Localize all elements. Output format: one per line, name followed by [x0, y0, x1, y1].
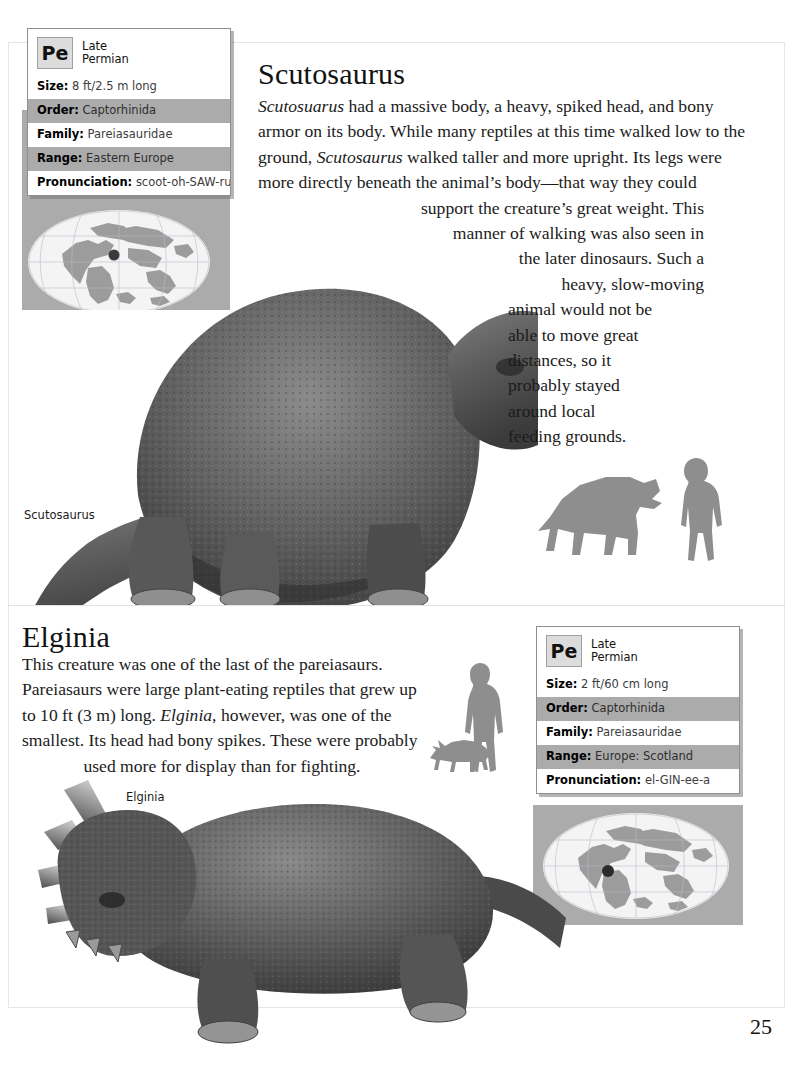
scutosaurus-infobox: Pe Late Permian Size: 8 ft/2.5 m long Or… [27, 28, 231, 196]
row-label: Family: [37, 127, 84, 141]
paragraph-line: able to move great [508, 323, 763, 348]
paragraph-line: probably stayed [508, 373, 763, 398]
paragraph-line: manner of walking was also seen in [258, 221, 704, 246]
epoch-line-1: Late [591, 638, 638, 652]
elginia-heading: Elginia [22, 620, 110, 654]
row-label: Order: [37, 103, 79, 117]
row-label: Order: [546, 701, 588, 715]
elginia-artwork-svg [28, 780, 568, 1060]
row-label: Family: [546, 725, 593, 739]
section-divider [8, 605, 785, 606]
elginia-scale-comparison [430, 662, 510, 780]
elginia-infobox: Pe Late Permian Size: 2 ft/60 cm long Or… [536, 626, 740, 794]
human-silhouette [681, 458, 722, 561]
row-value: Captorhinida [82, 103, 156, 117]
row-value: Eastern Europe [86, 151, 174, 165]
infobox-row-order: Order: Captorhinida [537, 697, 739, 721]
infobox-row-size: Size: 2 ft/60 cm long [537, 673, 739, 697]
infobox-row-range: Range: Eastern Europe [28, 147, 230, 171]
scutosaurus-paragraph: Scutosuarus had a massive body, a heavy,… [258, 94, 763, 450]
paragraph-line: armor on its body. While many reptiles a… [258, 119, 763, 144]
scutosaurus-caption: Scutosaurus [24, 508, 95, 522]
infobox-row-family: Family: Pareiasauridae [28, 123, 230, 147]
row-label: Size: [37, 79, 68, 93]
infobox-row-family: Family: Pareiasauridae [537, 721, 739, 745]
elginia-caption: Elginia [126, 790, 165, 804]
paragraph-line: around local [508, 399, 763, 424]
epoch-row: Pe Late Permian [537, 627, 739, 673]
paragraph-line: used more for display than for fighting. [22, 754, 422, 779]
infobox-row-range: Range: Europe: Scotland [537, 745, 739, 769]
species-italic: Scutosuarus [258, 96, 344, 116]
paragraph-line: feeding grounds. [508, 424, 763, 449]
paragraph-line: distances, so it [508, 348, 763, 373]
elginia-illustration [28, 780, 568, 1060]
infobox-row-order: Order: Captorhinida [28, 99, 230, 123]
row-value: scoot-oh-SAW-rus [136, 175, 230, 189]
infobox-row-pronunciation: Pronunciation: scoot-oh-SAW-rus [28, 171, 230, 195]
epoch-line-2: Permian [82, 53, 129, 67]
row-value: Pareiasauridae [597, 725, 682, 739]
paragraph-line: smallest. Its head had bony spikes. Thes… [22, 728, 422, 753]
scutosaurus-silhouette [538, 477, 662, 555]
scutosaurus-heading: Scutosaurus [258, 57, 405, 91]
paragraph-line: heavy, slow-moving [258, 272, 704, 297]
row-value: Pareiasauridae [88, 127, 173, 141]
epoch-label: Late Permian [82, 40, 129, 67]
row-label: Range: [37, 151, 82, 165]
scale-silhouettes-svg [532, 455, 732, 570]
paragraph-line: Pareiasaurs were large plant-eating rept… [22, 677, 422, 702]
paragraph-line: Scutosuarus had a massive body, a heavy,… [258, 94, 763, 119]
map-location-marker [602, 865, 614, 877]
elginia-paragraph: This creature was one of the last of the… [22, 652, 422, 779]
row-value: 2 ft/60 cm long [581, 677, 669, 691]
row-value: Europe: Scotland [595, 749, 693, 763]
epoch-badge: Pe [546, 635, 582, 667]
elginia-world-map [543, 813, 729, 919]
elginia-silhouette [430, 740, 490, 772]
epoch-line-1: Late [82, 40, 129, 54]
epoch-label: Late Permian [591, 638, 638, 665]
paragraph-line: more directly beneath the animal’s body—… [258, 170, 763, 195]
row-label: Pronunciation: [37, 175, 132, 189]
scutosaurus-scale-comparison [532, 455, 732, 570]
paragraph-line: This creature was one of the last of the… [22, 652, 422, 677]
scale-silhouettes-svg [430, 662, 510, 780]
infobox-row-size: Size: 8 ft/2.5 m long [28, 75, 230, 99]
paragraph-line: to 10 ft (3 m) long. Elginia, however, w… [22, 703, 422, 728]
row-value: Captorhinida [591, 701, 665, 715]
paragraph-line: support the creature’s great weight. Thi… [258, 196, 704, 221]
paragraph-line: animal would not be [508, 297, 763, 322]
world-map-graticule-svg [543, 813, 729, 919]
epoch-line-2: Permian [591, 651, 638, 665]
row-value: 8 ft/2.5 m long [72, 79, 157, 93]
row-label: Range: [546, 749, 591, 763]
species-italic: Scutosaurus [317, 147, 403, 167]
epoch-row: Pe Late Permian [28, 29, 230, 75]
epoch-badge: Pe [37, 37, 73, 69]
paragraph-line: ground, Scutosaurus walked taller and mo… [258, 145, 763, 170]
species-italic: Elginia [160, 705, 212, 725]
paragraph-line: the later dinosaurs. Such a [258, 246, 704, 271]
page-number: 25 [750, 1014, 772, 1040]
row-value: el-GIN-ee-a [645, 773, 710, 787]
row-label: Size: [546, 677, 577, 691]
